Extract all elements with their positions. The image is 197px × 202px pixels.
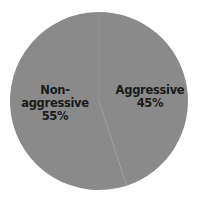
label-non-aggressive-name: Non-aggressive [12, 84, 98, 110]
label-aggressive-percent: 45% [114, 97, 186, 110]
label-non-aggressive: Non-aggressive 55% [12, 84, 98, 123]
label-aggressive: Aggressive 45% [114, 84, 186, 110]
label-non-aggressive-percent: 55% [12, 110, 98, 123]
